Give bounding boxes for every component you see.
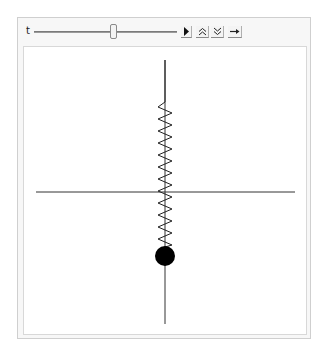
arrow-right-icon — [230, 28, 240, 35]
direction-button[interactable] — [228, 26, 242, 38]
t-slider-track[interactable] — [34, 31, 177, 33]
play-button[interactable] — [181, 26, 192, 38]
spring-mass-graphic — [24, 47, 306, 334]
play-icon — [183, 27, 190, 36]
t-slider-thumb[interactable] — [110, 24, 117, 39]
mass-ball — [155, 246, 175, 266]
faster-button[interactable] — [196, 26, 209, 38]
double-chevron-up-icon — [198, 27, 207, 36]
slower-button[interactable] — [211, 26, 224, 38]
double-chevron-down-icon — [213, 27, 222, 36]
slider-label-t: t — [26, 25, 30, 37]
plot-area — [23, 46, 307, 335]
animation-controls: t — [18, 18, 310, 46]
manipulate-panel: t — [17, 17, 311, 339]
